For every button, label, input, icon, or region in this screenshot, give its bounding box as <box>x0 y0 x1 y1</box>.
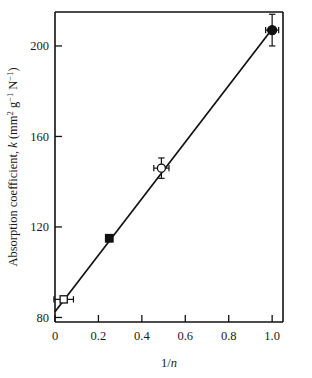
y-axis-title: Absorption coefficient, k (mm2 g−1 N−1) <box>5 67 20 266</box>
x-tick-label: 0.6 <box>177 329 193 343</box>
x-tick-label: 0.8 <box>221 329 237 343</box>
data-point-open-circle <box>157 164 165 172</box>
error-bars <box>54 14 279 302</box>
data-point-filled-circle <box>268 26 277 35</box>
x-axis-ticks <box>55 315 272 322</box>
y-tick-label: 120 <box>30 220 49 234</box>
scatter-chart: 80120160200 00.20.40.60.81.0 1/n Absorpt… <box>0 0 312 378</box>
x-tick-label: 0.4 <box>134 329 150 343</box>
y-tick-label: 80 <box>37 311 50 325</box>
y-tick-label: 160 <box>30 130 49 144</box>
data-point-filled-square <box>105 234 113 242</box>
y-axis-tick-labels: 80120160200 <box>30 39 49 325</box>
data-point-open-square <box>60 296 67 303</box>
y-tick-label: 200 <box>30 39 49 53</box>
x-axis-tick-labels: 00.20.40.60.81.0 <box>52 329 280 343</box>
figure-container: 80120160200 00.20.40.60.81.0 1/n Absorpt… <box>0 0 312 378</box>
x-tick-label: 1.0 <box>264 329 280 343</box>
x-axis-title: 1/n <box>161 356 177 370</box>
y-axis-ticks <box>55 46 62 318</box>
x-tick-label: 0.2 <box>91 329 107 343</box>
x-tick-label: 0 <box>52 329 58 343</box>
